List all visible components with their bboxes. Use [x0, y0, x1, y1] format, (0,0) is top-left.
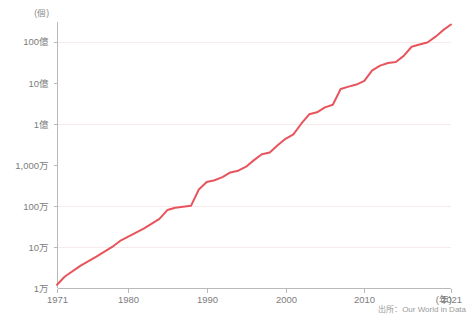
- series-line-transistor-count: [57, 25, 451, 285]
- y-axis-unit-label: (個): [34, 8, 49, 18]
- x-axis-unit-label: (年): [436, 294, 452, 305]
- y-axis-tick-label: 1万: [34, 283, 49, 294]
- y-axis-tick-label: 10億: [28, 78, 49, 89]
- chart-container: 1万10万100万1,000万1億10億100億 197119801990200…: [0, 0, 472, 323]
- y-axis-tick-label: 1億: [34, 119, 49, 130]
- source-note: 出所：Our World in Data: [378, 304, 466, 314]
- x-axis-tick-label: 2000: [276, 294, 297, 305]
- y-axis-tick-label: 100億: [23, 36, 49, 47]
- x-axis-tick-label: 2010: [354, 294, 375, 305]
- transistor-count-line-chart: 1万10万100万1,000万1億10億100億 197119801990200…: [0, 0, 472, 323]
- x-axis-tick-label: 1971: [47, 294, 68, 305]
- x-axis-tick-label: 1990: [197, 294, 218, 305]
- y-axis-tick-label: 100万: [23, 201, 49, 212]
- x-axis-tick-labels: 197119801990200020102021: [47, 294, 462, 305]
- gridlines-group: [57, 42, 451, 247]
- y-axis-tick-label: 1,000万: [15, 160, 49, 171]
- x-axis-tick-label: 1980: [118, 294, 139, 305]
- y-axis-tick-label: 10万: [28, 242, 49, 253]
- y-axis-tick-labels: 1万10万100万1,000万1億10億100億: [15, 36, 49, 293]
- data-series-group: [57, 25, 451, 285]
